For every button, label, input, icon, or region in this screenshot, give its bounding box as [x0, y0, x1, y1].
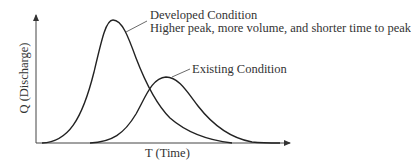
existing-curve [90, 77, 280, 143]
developed-leader-line [126, 21, 147, 32]
y-axis-label: Q (Discharge) [17, 33, 31, 123]
developed-curve [42, 20, 232, 143]
existing-leader-line [172, 69, 190, 77]
developed-condition-label: Developed Condition [150, 8, 257, 22]
developed-condition-description: Higher peak, more volume, and shorter ti… [150, 21, 411, 35]
x-axis-label: T (Time) [145, 146, 190, 160]
existing-condition-label: Existing Condition [192, 62, 287, 76]
